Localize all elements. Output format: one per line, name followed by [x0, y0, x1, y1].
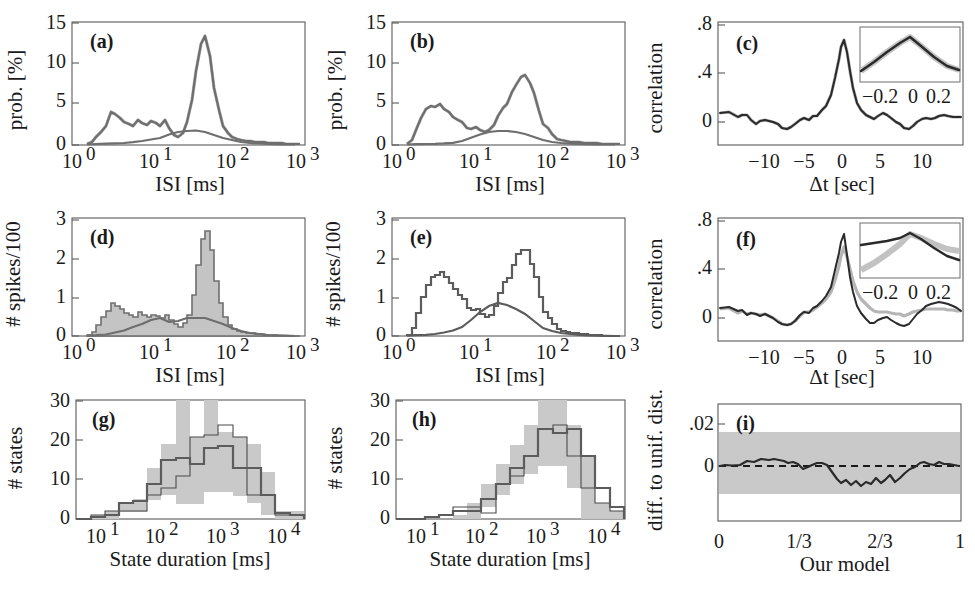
panel-e-ylabel: # spikes/100	[321, 221, 345, 327]
panel-i-ytick-0: 0	[704, 454, 714, 476]
panel-b-ylabel: prob. [%]	[323, 50, 347, 130]
panel-e-series-main	[407, 250, 620, 336]
panel-b-xtick-exp-2: 2	[560, 143, 570, 164]
panel-e-xtick-base-3: 10	[606, 341, 626, 363]
panel-h-xtick-base-3: 10	[587, 525, 607, 547]
panel-f-ytick-08: .8	[697, 208, 712, 230]
panel-g-ylabel: # states	[3, 427, 27, 489]
panel-e-yticks	[392, 220, 399, 336]
panel-c-xtick-m10: −10	[748, 150, 779, 172]
panel-e-xtick-base-1: 10	[459, 341, 479, 363]
panel-h: # states 30 20 10 0	[320, 380, 640, 575]
figure-root: prob. [%] 15 10 5 0 (a) 10 0	[0, 0, 975, 591]
panel-f-ytick-0: 0	[702, 305, 712, 327]
panel-e-xticks: 10 0 10 1 10 2 10 3	[382, 334, 640, 363]
panel-f-inset: −0.2 0 0.2	[860, 223, 960, 303]
panel-h-confidence-band	[453, 400, 624, 519]
panel-c-xticks: −10 −5 0 5 10	[748, 150, 932, 172]
panel-b-xtick-exp-3: 3	[630, 143, 640, 164]
panel-d-xtick-base-1: 10	[139, 341, 159, 363]
panel-i-ytick-02: .02	[689, 412, 714, 434]
panel-i-label: (i)	[736, 412, 755, 435]
panel-c-ytick-04: .4	[697, 60, 712, 82]
panel-c-inset: −0.2 0 0.2	[860, 27, 960, 107]
panel-a-ylabel: prob. [%]	[3, 50, 27, 130]
panel-c-label: (c)	[736, 32, 758, 55]
panel-e-ytick-1: 1	[376, 285, 386, 307]
panel-g-confidence-band	[91, 400, 304, 519]
panel-b-xtick-base-3: 10	[606, 150, 626, 172]
panel-b-ytick-15: 15	[366, 11, 386, 33]
panel-a-xtick-base-1: 10	[139, 150, 159, 172]
panel-g-yticks	[76, 401, 83, 519]
panel-b-xtick-exp-1: 1	[483, 143, 493, 164]
panel-e-series-conditioned	[407, 303, 615, 336]
panel-i-xlabel: Our model	[800, 552, 891, 576]
panel-h-ytick-10: 10	[370, 467, 390, 489]
panel-f-inset-xtick-pos: 0.2	[926, 281, 951, 303]
panel-g-ytick-30: 30	[50, 389, 70, 411]
panel-d-xtick-base-0: 10	[62, 341, 82, 363]
panel-a-ytick-15: 15	[46, 11, 66, 33]
panel-a-xlabel: ISI [ms]	[155, 172, 224, 196]
panel-d-xtick-base-3: 10	[286, 341, 306, 363]
panel-c-ytick-08: .8	[697, 12, 712, 34]
panel-d-ytick-3: 3	[56, 207, 66, 229]
panel-a-xtick-base-3: 10	[286, 150, 306, 172]
panel-e-xtick-exp-3: 3	[630, 334, 640, 355]
panel-g-xtick-base-0: 10	[86, 525, 106, 547]
panel-b-series-main	[407, 75, 620, 144]
panel-e-xtick-exp-2: 2	[560, 334, 570, 355]
panel-g-xlabel: State duration [ms]	[110, 547, 271, 571]
panel-a-ytick-10: 10	[46, 50, 66, 72]
panel-h-xtick-exp-1: 2	[489, 518, 499, 539]
panel-g-ytick-0: 0	[60, 506, 70, 528]
panel-b-xlabel: ISI [ms]	[475, 172, 544, 196]
panel-b-xtick-base-1: 10	[459, 150, 479, 172]
panel-f-ylabel: correlation	[643, 238, 667, 329]
panel-g-xtick-exp-0: 1	[110, 518, 120, 539]
panel-a: prob. [%] 15 10 5 0 (a) 10 0	[0, 0, 320, 195]
panel-f-xtick-10: 10	[912, 346, 932, 368]
panel-h-xtick-base-0: 10	[406, 525, 426, 547]
panel-g-xticks: 10 1 10 2 10 3 10 4	[86, 518, 301, 547]
panel-d-ylabel: # spikes/100	[1, 221, 25, 327]
panel-h-ytick-30: 30	[370, 389, 390, 411]
panel-a-xtick-exp-3: 3	[310, 143, 320, 164]
panel-e-label: (e)	[410, 226, 432, 249]
panel-i-xtick-1: 1	[955, 530, 965, 552]
panel-h-label: (h)	[412, 408, 436, 431]
panel-d-xtick-exp-2: 2	[240, 334, 250, 355]
panel-b-xtick-exp-0: 0	[406, 143, 416, 164]
panel-g-ytick-10: 10	[50, 467, 70, 489]
panel-c-xlabel: Δt [sec]	[809, 172, 874, 196]
panel-b-xtick-base-0: 10	[382, 150, 402, 172]
panel-b-yticks	[392, 23, 399, 145]
panel-a-xtick-exp-0: 0	[86, 143, 96, 164]
panel-a-yticks	[72, 23, 79, 145]
panel-g: # states 30 20 10 0	[0, 380, 320, 575]
panel-c: correlation .8 .4 0 (c) −0.2 0 0.2	[640, 0, 975, 195]
panel-i: diff. to unif. dist. .02 0 (i) 0 1/3 2/3…	[640, 380, 975, 575]
caption-strip	[0, 578, 975, 591]
panel-h-ytick-20: 20	[370, 428, 390, 450]
panel-b-band	[407, 75, 620, 144]
panel-h-xlabel: State duration [ms]	[430, 547, 591, 571]
panel-b-xticks: 10 0 10 1 10 2 10 3	[382, 143, 640, 172]
panel-a-series-main	[87, 36, 300, 144]
panel-i-xtick-0: 0	[714, 530, 724, 552]
panel-f-yticks	[718, 221, 725, 318]
panel-g-ytick-20: 20	[50, 428, 70, 450]
panel-g-xtick-exp-3: 4	[291, 518, 301, 539]
panel-a-ytick-5: 5	[56, 89, 66, 111]
panel-a-xtick-base-2: 10	[216, 150, 236, 172]
panel-e-xtick-base-0: 10	[382, 341, 402, 363]
panel-d-xtick-exp-0: 0	[86, 334, 96, 355]
panel-b-label: (b)	[410, 30, 434, 53]
panel-f: correlation .8 .4 0 (f) −0.2 0 0.2	[640, 196, 975, 386]
panel-g-xtick-exp-1: 2	[169, 518, 179, 539]
panel-i-xtick-third: 1/3	[786, 530, 812, 552]
panel-d-xticks: 10 0 10 1 10 2 10 3	[62, 334, 320, 363]
panel-d-ytick-1: 1	[56, 285, 66, 307]
panel-g-xtick-exp-2: 3	[230, 518, 240, 539]
